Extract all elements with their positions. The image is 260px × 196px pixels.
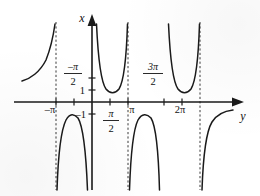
math-figure-csc-graph: x y –π –π 2 π 2 π 3π 2 2π 1 –1 <box>0 0 260 196</box>
tick-label-one: 1 <box>80 85 85 96</box>
curve-branch-two-pi-to-three-pi <box>169 24 200 93</box>
tick-label-neg-one: –1 <box>75 109 87 120</box>
graph-canvas: x y –π –π 2 π 2 π 3π 2 2π 1 –1 <box>0 0 260 196</box>
vertical-axis-arrowhead <box>88 14 97 26</box>
axes-group <box>14 14 244 190</box>
curve-branch-right-partial <box>202 110 233 190</box>
x-axis-label: x <box>78 11 85 25</box>
tick-label-neg-pi-over-2-denominator: 2 <box>70 76 75 87</box>
curve-branch-pi-to-two-pi <box>130 115 160 190</box>
tick-label-pi-over-2-numerator: π <box>108 108 114 119</box>
curve-branch-left-partial <box>22 24 55 81</box>
tick-label-three-pi-over-2-denominator: 2 <box>150 76 155 87</box>
tick-label-pi-over-2-denominator: 2 <box>108 123 113 134</box>
tick-label-three-pi-over-2: 3π 2 <box>143 61 163 87</box>
y-axis-label: y <box>239 109 246 123</box>
horizontal-axis-arrowhead <box>232 98 244 107</box>
curve-branch-zero-to-pi <box>97 24 128 93</box>
tick-label-two-pi: 2π <box>175 104 186 115</box>
tick-label-pi-over-2: π 2 <box>103 108 119 134</box>
curve-branch-neg-pi-to-zero <box>57 115 88 190</box>
tick-label-neg-pi-over-2-numerator: –π <box>67 61 79 72</box>
tick-label-three-pi-over-2-numerator: 3π <box>147 61 159 72</box>
tick-label-neg-pi: –π <box>44 104 56 115</box>
tick-label-pi: π <box>129 104 135 115</box>
tick-label-neg-pi-over-2: –π 2 <box>64 61 82 87</box>
